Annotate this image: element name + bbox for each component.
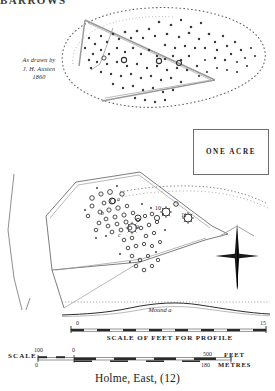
upper-plan-drawing [55,4,275,116]
attribution-caption: As drawn by J. H. Austen 1860 [8,56,70,82]
scale-word: SCALE [8,352,37,360]
field-boundary-left [8,174,30,310]
scale-metres-end: 180 [201,362,210,368]
scale-metres-unit: METRES [218,361,251,368]
scale-feet-unit: FEET [224,351,245,358]
profile-scale-bar [70,326,270,334]
profile-tick-0: 0 [76,320,79,326]
north-arrow-icon [215,224,259,290]
figure-page: BARROWS [0,0,275,391]
barrow-ring-west-of-10 [154,215,159,220]
scale-feet-start: 100 [34,347,43,353]
barrow-label-11: 11 [181,212,187,218]
attribution-line-2: J. H. Austen [8,65,70,74]
field-triangle-lines [79,20,215,101]
one-acre-label: ONE ACRE [194,148,268,156]
mound-profile-label: Mound a [130,306,190,313]
one-acre-reference-box: ONE ACRE [193,129,269,175]
scale-feet-end: 500 [203,351,212,357]
barrow-label-10: 10 [155,205,161,211]
profile-tick-15: 15 [260,320,266,326]
hachured-barrow-10 [160,206,172,218]
field-triangle-inner [88,23,211,98]
attribution-line-3: 1860 [8,73,70,82]
scale-metres-zero: 0 [35,362,38,368]
figure-title: Holme, East, (12) [0,372,275,384]
scale-feet-zero: 0 [72,347,75,353]
internal-division-lines [91,28,113,70]
trackway-dotted [120,186,268,204]
barrow-label-a: a [117,196,120,202]
barrow-label-b: b [101,210,104,216]
trackway-dotted-second [122,191,270,209]
barrow-label-c: c [118,232,121,238]
attribution-line-1: As drawn by [8,56,70,65]
barrow-circle-group [86,190,161,272]
profile-scale-title: SCALE OF FEET FOR PROFILE [75,334,265,342]
lower-plan-drawing [0,170,275,310]
barrow-label-9: 9 [136,224,139,230]
enclosure-inner-line [50,175,210,308]
